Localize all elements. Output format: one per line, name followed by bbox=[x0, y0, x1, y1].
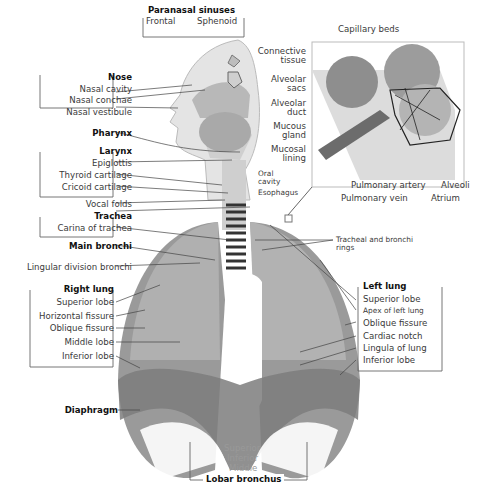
left-oblique-fissure-label: Oblique fissure bbox=[363, 318, 427, 328]
diaphragm-heading: Diaphragm bbox=[65, 405, 118, 415]
paranasal-sinuses-heading: Paranasal sinuses bbox=[148, 5, 235, 15]
frontal-sinus-label: Frontal bbox=[146, 16, 175, 26]
atrium-label: Atrium bbox=[431, 193, 460, 203]
pulmonary-artery-label: Pulmonary artery bbox=[351, 180, 426, 190]
right-lung-heading: Right lung bbox=[64, 284, 114, 294]
nasal-vestibule-label: Nasal vestibule bbox=[66, 107, 132, 117]
nose-heading: Nose bbox=[108, 72, 132, 82]
mucous-gland-label-2: gland bbox=[282, 130, 306, 140]
esophagus-label: Esophagus bbox=[258, 189, 298, 198]
lobar-bronchus-heading: Lobar bronchus bbox=[203, 474, 284, 484]
connective-tissue-label-2: tissue bbox=[281, 55, 306, 65]
left-lung-heading: Left lung bbox=[363, 281, 409, 291]
thyroid-cartilage-label: Thyroid cartilage bbox=[59, 170, 132, 180]
alveolar-duct-label-2: duct bbox=[287, 107, 306, 117]
capillary-beds-label: Capillary beds bbox=[338, 24, 399, 34]
left-inferior-lobe-label: Inferior lobe bbox=[363, 355, 415, 365]
lingula-of-lung-label: Lingula of lung bbox=[363, 343, 427, 353]
alveoli-label: Alveoli bbox=[441, 180, 470, 190]
lingular-division-bronchi-label: Lingular division bronchi bbox=[27, 262, 132, 272]
cricoid-cartilage-label: Cricoid cartilage bbox=[62, 182, 132, 192]
epiglottis-label: Epiglottis bbox=[92, 158, 132, 168]
main-bronchi-heading: Main bronchi bbox=[69, 241, 132, 251]
inferior-bronchus-label: Inferior bbox=[227, 453, 258, 463]
middle-lobe-label: Middle lobe bbox=[64, 337, 114, 347]
tracheal-rings-label-2: rings bbox=[336, 244, 354, 253]
respiratory-illustration bbox=[0, 0, 494, 504]
pulmonary-vein-label: Pulmonary vein bbox=[341, 193, 408, 203]
middle-bronchus-label: Middle bbox=[229, 463, 257, 473]
trachea-heading: Trachea bbox=[94, 211, 132, 221]
nasal-cavity-label: Nasal cavity bbox=[80, 84, 132, 94]
pharynx-heading: Pharynx bbox=[92, 128, 132, 138]
right-inferior-lobe-label: Inferior lobe bbox=[62, 351, 114, 361]
sphenoid-sinus-label: Sphenoid bbox=[197, 16, 237, 26]
left-superior-lobe-label: Superior lobe bbox=[363, 294, 420, 304]
right-oblique-fissure-label: Oblique fissure bbox=[50, 323, 114, 333]
horizontal-fissure-label: Horizontal fissure bbox=[39, 311, 114, 321]
right-superior-lobe-label: Superior lobe bbox=[57, 297, 114, 307]
apex-of-left-lung-label: Apex of left lung bbox=[363, 307, 424, 316]
larynx-heading: Larynx bbox=[99, 146, 132, 156]
alveolar-sacs-label-2: sacs bbox=[287, 83, 306, 93]
mucosal-lining-label-2: lining bbox=[282, 153, 306, 163]
carina-of-trachea-label: Carina of trachea bbox=[57, 223, 132, 233]
superior-bronchus-label: Superior bbox=[224, 443, 260, 453]
oral-cavity-label-2: cavity bbox=[258, 178, 280, 187]
cardiac-notch-label: Cardiac notch bbox=[363, 331, 422, 341]
vocal-folds-label: Vocal folds bbox=[86, 199, 132, 209]
nasal-conchae-label: Nasal conchae bbox=[69, 95, 132, 105]
